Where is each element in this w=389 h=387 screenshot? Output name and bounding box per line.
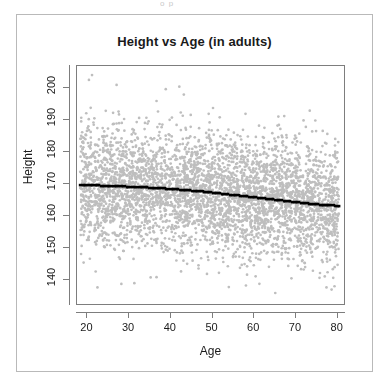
y-tick-label-190: 190: [0, 111, 60, 123]
plot-area: [76, 65, 345, 305]
x-tick-label-40: 40: [150, 321, 190, 333]
y-tick-180: [63, 151, 70, 152]
y-tick-170: [63, 183, 70, 184]
x-tick-60: [253, 312, 254, 318]
y-axis-title-label: Height: [21, 150, 35, 185]
x-tick-70: [295, 312, 296, 318]
x-axis-title: Age: [76, 344, 345, 358]
x-tick-40: [170, 312, 171, 318]
y-tick-label-160: 160: [0, 207, 60, 219]
y-tick-140: [63, 279, 70, 280]
x-tick-label-70: 70: [275, 321, 315, 333]
figure-page: o p Height vs Age (in adults) 1401501601…: [0, 0, 389, 387]
x-tick-80: [337, 312, 338, 318]
y-axis-title: Height: [0, 160, 58, 174]
x-tick-50: [212, 312, 213, 318]
scan-artifact-text: o p: [160, 0, 184, 7]
x-tick-label-30: 30: [108, 321, 148, 333]
x-tick-label-50: 50: [192, 321, 232, 333]
x-tick-20: [86, 312, 87, 318]
y-axis-line: [69, 65, 70, 305]
x-tick-30: [128, 312, 129, 318]
y-tick-190: [63, 119, 70, 120]
chart-title: Height vs Age (in adults): [16, 34, 373, 49]
y-tick-label-150: 150: [0, 239, 60, 251]
y-tick-label-200: 200: [0, 79, 60, 91]
x-tick-label-20: 20: [66, 321, 106, 333]
y-tick-160: [63, 215, 70, 216]
x-tick-label-80: 80: [317, 321, 357, 333]
x-axis-line: [76, 312, 345, 313]
y-tick-200: [63, 87, 70, 88]
y-tick-label-140: 140: [0, 271, 60, 283]
y-tick-150: [63, 247, 70, 248]
x-tick-label-60: 60: [233, 321, 273, 333]
trend-line-layer: [77, 66, 344, 304]
